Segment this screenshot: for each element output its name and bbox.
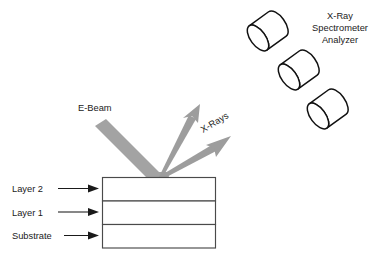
stack-pointer-group xyxy=(58,185,99,240)
detector-3 xyxy=(303,85,352,132)
layer-2-label: Layer 2 xyxy=(12,184,43,194)
substrate-pointer-head xyxy=(88,232,99,240)
xray-analysis-diagram: Layer 2 Layer 1 Substrate E-Beam X-Rays xyxy=(0,0,389,263)
layer-2-pointer-head xyxy=(88,185,99,193)
layer-1-rect xyxy=(103,201,216,225)
diagram-canvas: Layer 2 Layer 1 Substrate E-Beam X-Rays xyxy=(0,0,389,263)
detector-1 xyxy=(243,7,292,54)
ebeam-label: E-Beam xyxy=(78,103,112,113)
layer-1-label: Layer 1 xyxy=(12,208,43,218)
xrays-label: X-Rays xyxy=(199,110,231,134)
layer-2-rect xyxy=(103,178,216,202)
substrate-rect xyxy=(103,225,216,249)
detector-2 xyxy=(274,46,323,93)
detector-title-line-2: Spectrometer xyxy=(312,23,368,33)
specimen-stack xyxy=(103,178,216,249)
substrate-label: Substrate xyxy=(12,231,52,241)
detector-title-line-3: Analyzer xyxy=(322,35,358,45)
layer-1-pointer-head xyxy=(88,208,99,216)
detector-title-line-1: X-Ray xyxy=(327,11,353,21)
